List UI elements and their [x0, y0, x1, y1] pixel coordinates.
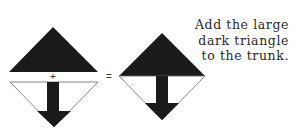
caption-line-1: Add the large — [179, 17, 289, 33]
plus-operator: + — [50, 72, 56, 82]
caption-line-2: dark triangle — [179, 33, 289, 49]
instruction-caption: Add the large dark triangle to the trunk… — [179, 17, 289, 64]
trunk-stem — [47, 82, 59, 112]
result-trunk-stem — [156, 76, 168, 104]
equals-operator: = — [106, 72, 112, 82]
caption-line-3: to the trunk. — [179, 48, 289, 64]
trunk-block — [10, 82, 98, 127]
large-dark-triangle — [9, 27, 98, 72]
result-base-triangle — [145, 103, 179, 120]
trunk-base-triangle — [37, 111, 71, 127]
